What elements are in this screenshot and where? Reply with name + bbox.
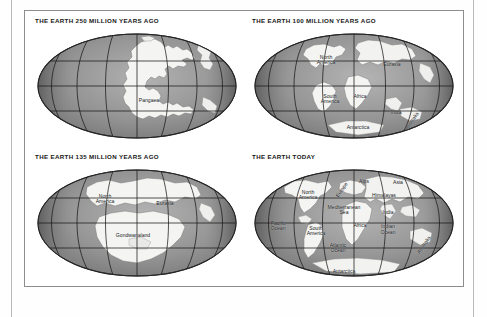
globe-svg [37, 33, 237, 139]
panel-earth-135-mya: THE EARTH 135 MILLION YEARS AGO [29, 153, 245, 285]
panel-grid: THE EARTH 250 MILLION YEARS AGO [25, 11, 463, 286]
panel-title: THE EARTH 100 MILLION YEARS AGO [252, 17, 376, 24]
globe-earth-100-mya: North America Eurasia South America Afri… [254, 33, 454, 139]
figure-frame: THE EARTH 250 MILLION YEARS AGO [24, 10, 464, 287]
panel-earth-today: THE EARTH TODAY [246, 153, 462, 285]
panel-earth-100-mya: THE EARTH 100 MILLION YEARS AGO [246, 17, 462, 151]
globe-earth-today: North America Europe Alps Asia Himalayas… [254, 169, 454, 277]
panel-title: THE EARTH 250 MILLION YEARS AGO [35, 17, 159, 24]
globe-svg [254, 33, 454, 139]
page-edge-rule-left [11, 0, 12, 317]
page-edge-rule-right [473, 0, 474, 317]
page-canvas: THE EARTH 250 MILLION YEARS AGO [0, 0, 487, 317]
globe-earth-135-mya: North America Eurasia Gondwanaland [37, 169, 237, 277]
panel-earth-250-mya: THE EARTH 250 MILLION YEARS AGO [29, 17, 245, 151]
panel-title: THE EARTH TODAY [252, 153, 315, 160]
globe-earth-250-mya: Pangaea [37, 33, 237, 139]
panel-title: THE EARTH 135 MILLION YEARS AGO [35, 153, 159, 160]
globe-svg [254, 169, 454, 277]
globe-svg [37, 169, 237, 277]
